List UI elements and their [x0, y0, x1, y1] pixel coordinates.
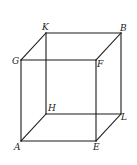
vertex-label-b: B: [119, 23, 127, 33]
edge-le: [96, 114, 121, 141]
vertex-label-a: A: [13, 142, 21, 152]
edge-bf: [96, 33, 121, 60]
edge-ha: [21, 114, 46, 141]
vertex-label-f: F: [96, 59, 104, 69]
cube-diagram: K B G F H L A E: [0, 0, 137, 165]
vertex-label-l: L: [120, 112, 127, 122]
cube-edges: [21, 33, 121, 141]
vertex-label-h: H: [47, 103, 56, 113]
vertex-label-g: G: [12, 56, 19, 66]
vertex-label-e: E: [92, 142, 100, 152]
vertex-label-k: K: [41, 22, 50, 32]
edge-kg: [21, 33, 46, 60]
